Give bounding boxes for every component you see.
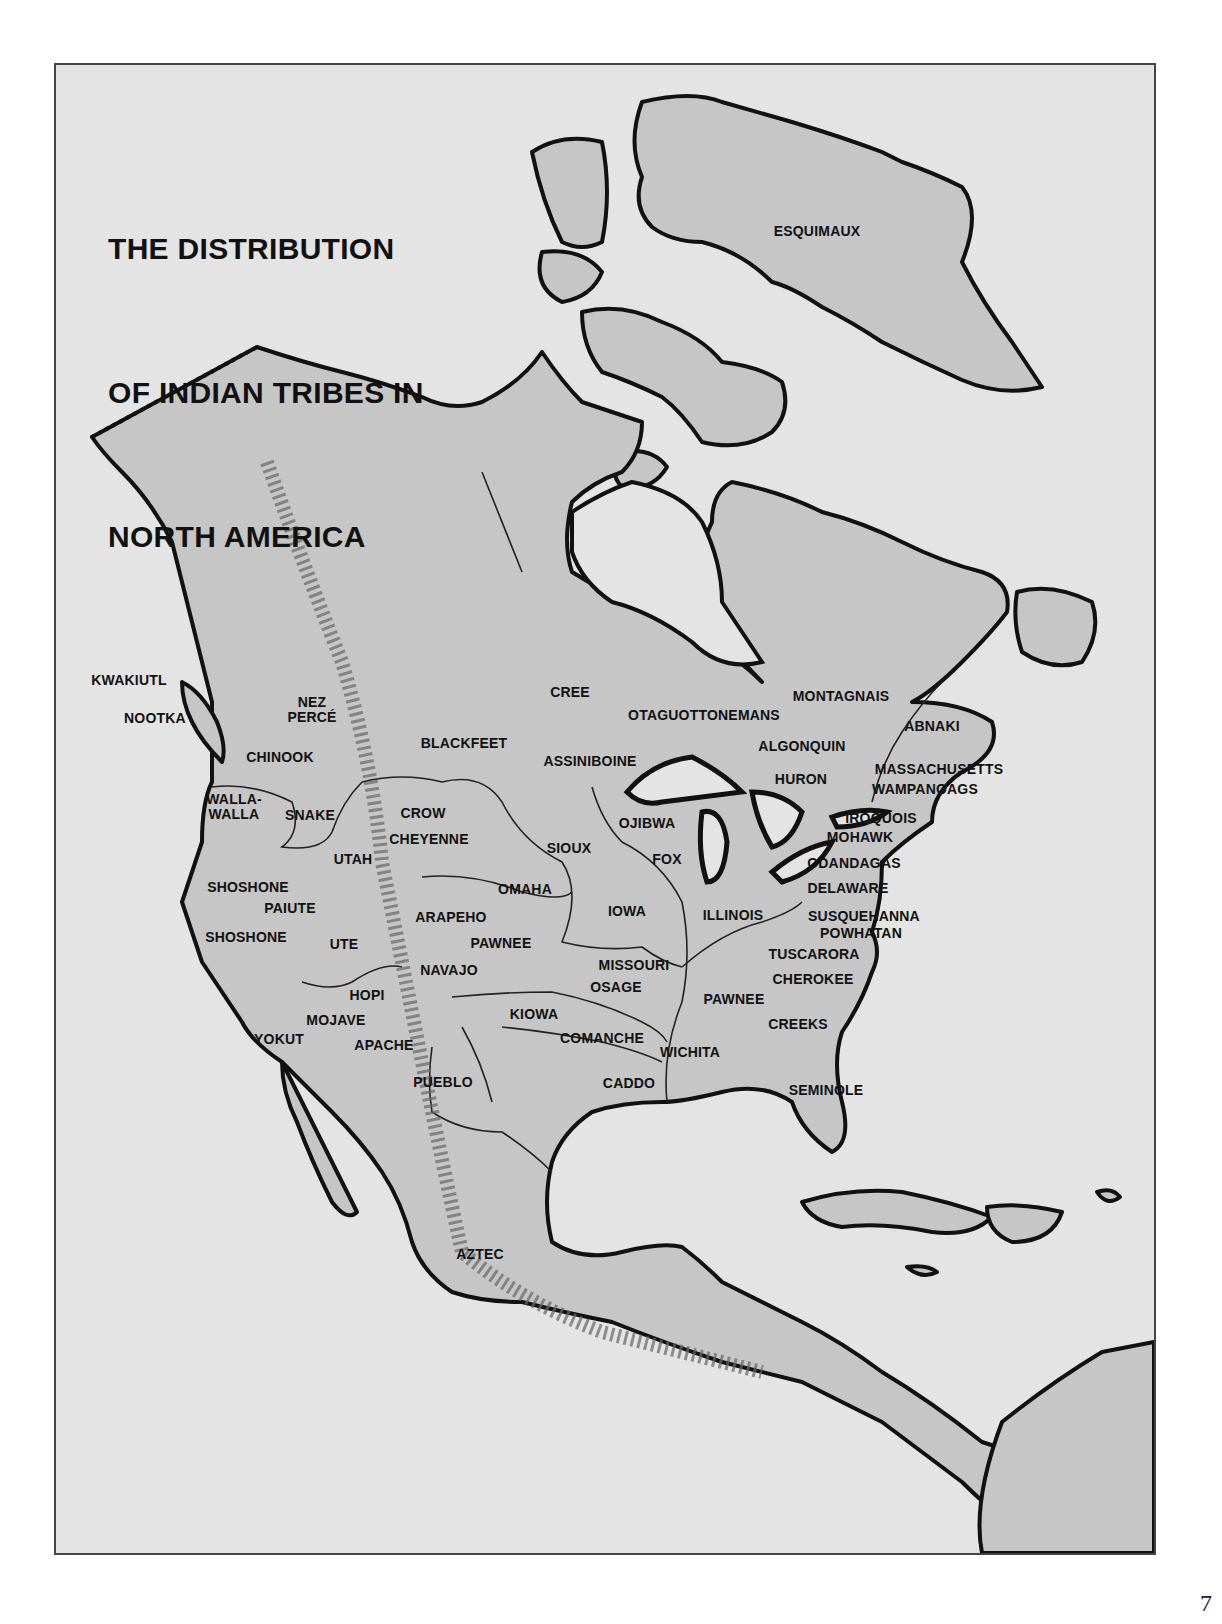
tribe-label-ute: UTE	[330, 937, 359, 952]
tribe-label-text: OJIBWA	[619, 816, 675, 831]
tribe-label-omaha: OMAHA	[498, 882, 552, 897]
tribe-label-text: MISSOURI	[599, 958, 670, 973]
tribe-label-text: DELAWARE	[808, 881, 889, 896]
tribe-label-ojibwa: OJIBWA	[619, 816, 675, 831]
tribe-label-iroquois: IROQUOIS	[845, 811, 917, 826]
tribe-label-caddo: CADDO	[603, 1076, 655, 1091]
tribe-label-text: HOPI	[349, 988, 384, 1003]
tribe-label-montagnais: MONTAGNAIS	[793, 689, 890, 704]
tribe-label-text: IROQUOIS	[845, 811, 917, 826]
tribe-label-walla-walla: WALLA-WALLA	[206, 792, 262, 822]
tribe-label-fox: FOX	[652, 852, 681, 867]
map-title-line-2: OF INDIAN TRIBES IN	[108, 369, 424, 417]
tribe-label-text: KIOWA	[510, 1007, 558, 1022]
tribe-label-text: UTAH	[334, 852, 373, 867]
tribe-label-text: PUEBLO	[413, 1075, 473, 1090]
cuba	[802, 1191, 992, 1233]
tribe-label-text: SHOSHONE	[205, 930, 287, 945]
map-frame: THE DISTRIBUTION OF INDIAN TRIBES IN NOR…	[54, 63, 1156, 1555]
tribe-label-hopi: HOPI	[349, 988, 384, 1003]
tribe-label-arapeho: ARAPEHO	[415, 910, 486, 925]
tribe-label-text: SHOSHONE	[207, 880, 289, 895]
tribe-label-text: ESQUIMAUX	[774, 224, 861, 239]
tribe-label-kwakiutl: KWAKIUTL	[91, 673, 166, 688]
tribe-label-text: CHEROKEE	[773, 972, 854, 987]
tribe-label-text: ABNAKI	[904, 719, 960, 734]
tribe-label-text: OSAGE	[590, 980, 642, 995]
tribe-label-cree: CREE	[550, 685, 590, 700]
tribe-label-assiniboine: ASSINIBOINE	[543, 754, 636, 769]
tribe-label-text: ODANDAGAS	[807, 856, 901, 871]
tribe-label-massachusetts: MASSACHUSETTS	[875, 762, 1004, 777]
tribe-label-text: PAWNEE	[704, 992, 765, 1007]
tribe-label-comanche: COMANCHE	[560, 1031, 644, 1046]
tribe-label-text: UTE	[330, 937, 359, 952]
tribe-label-text: WALLA	[206, 807, 262, 822]
tribe-label-delaware: DELAWARE	[808, 881, 889, 896]
tribe-label-text: SNAKE	[285, 808, 335, 823]
tribe-label-utah: UTAH	[334, 852, 373, 867]
tribe-label-powhatan: POWHATAN	[820, 926, 902, 941]
tribe-label-text: ALGONQUIN	[758, 739, 845, 754]
tribe-label-sioux: SIOUX	[547, 841, 592, 856]
tribe-label-text: NAVAJO	[420, 963, 477, 978]
tribe-label-blackfeet: BLACKFEET	[421, 736, 508, 751]
tribe-label-text: NEZ	[287, 695, 336, 710]
tribe-label-text: WAMPANOAGS	[872, 782, 978, 797]
tribe-label-text: CHEYENNE	[389, 832, 468, 847]
tribe-label-text: CREE	[550, 685, 590, 700]
tribe-label-huron: HURON	[775, 772, 827, 787]
jamaica	[907, 1266, 937, 1275]
tribe-label-text: POWHATAN	[820, 926, 902, 941]
tribe-label-cheyenne: CHEYENNE	[389, 832, 468, 847]
tribe-label-algonquin: ALGONQUIN	[758, 739, 845, 754]
tribe-label-text: ARAPEHO	[415, 910, 486, 925]
tribe-label-text: PAIUTE	[264, 901, 316, 916]
tribe-label-odandagas: ODANDAGAS	[807, 856, 901, 871]
tribe-label-susquehanna: SUSQUEHANNA	[808, 909, 920, 924]
tribe-label-wichita: WICHITA	[660, 1045, 720, 1060]
tribe-label-text: OTAGUOTTONEMANS	[628, 708, 780, 723]
map-title-line-1: THE DISTRIBUTION	[108, 225, 424, 273]
tribe-label-text: CROW	[400, 806, 445, 821]
tribe-label-text: SIOUX	[547, 841, 592, 856]
tribe-label-wampanoags: WAMPANOAGS	[872, 782, 978, 797]
page-number: 7	[1200, 1590, 1212, 1617]
tribe-label-text: COMANCHE	[560, 1031, 644, 1046]
tribe-label-text: YOKUT	[254, 1032, 304, 1047]
tribe-label-text: CADDO	[603, 1076, 655, 1091]
tribe-label-text: OMAHA	[498, 882, 552, 897]
tribe-label-mohawk: MOHAWK	[827, 830, 894, 845]
tribe-label-iowa: IOWA	[608, 904, 646, 919]
tribe-label-text: PAWNEE	[471, 936, 532, 951]
tribe-label-cherokee: CHEROKEE	[773, 972, 854, 987]
tribe-label-aztec: AZTEC	[456, 1247, 504, 1262]
tribe-label-text: KWAKIUTL	[91, 673, 166, 688]
tribe-label-osage: OSAGE	[590, 980, 642, 995]
tribe-label-esquimaux: ESQUIMAUX	[774, 224, 861, 239]
tribe-label-text: NOOTKA	[124, 711, 186, 726]
tribe-label-apache: APACHE	[354, 1038, 413, 1053]
tribe-label-nootka: NOOTKA	[124, 711, 186, 726]
tribe-label-kiowa: KIOWA	[510, 1007, 558, 1022]
tribe-label-text: MASSACHUSETTS	[875, 762, 1004, 777]
tribe-label-text: APACHE	[354, 1038, 413, 1053]
tribe-label-shoshone-north: SHOSHONE	[207, 880, 289, 895]
tribe-label-abnaki: ABNAKI	[904, 719, 960, 734]
tribe-label-mojave: MOJAVE	[306, 1013, 365, 1028]
tribe-label-text: FOX	[652, 852, 681, 867]
tribe-label-illinois: ILLINOIS	[703, 908, 764, 923]
tribe-label-text: AZTEC	[456, 1247, 504, 1262]
tribe-label-text: WALLA-	[206, 792, 262, 807]
tribe-label-seminole: SEMINOLE	[789, 1083, 864, 1098]
map-title-line-3: NORTH AMERICA	[108, 513, 424, 561]
tribe-label-shoshone-south: SHOSHONE	[205, 930, 287, 945]
tribe-label-navajo: NAVAJO	[420, 963, 477, 978]
tribe-label-otaguottonemans: OTAGUOTTONEMANS	[628, 708, 780, 723]
tribe-label-pawnee-east: PAWNEE	[704, 992, 765, 1007]
tribe-label-creeks: CREEKS	[768, 1017, 828, 1032]
lake-michigan	[700, 811, 727, 882]
tribe-label-text: SUSQUEHANNA	[808, 909, 920, 924]
hispaniola	[987, 1205, 1062, 1242]
tribe-label-text: MOJAVE	[306, 1013, 365, 1028]
